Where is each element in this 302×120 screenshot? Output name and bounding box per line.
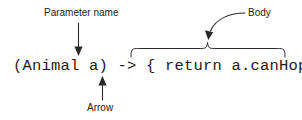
connector-parameter-name-arrow-icon [74,23,82,56]
connector-arrow-arrowhead-icon [98,76,106,100]
diagram-canvas: Parameter name Body Arrow (Animal a) -> … [0,0,302,120]
body-curly-brace-icon [131,43,285,58]
connector-overlay [0,0,302,120]
connector-body-curved-arrow-icon [205,13,245,40]
